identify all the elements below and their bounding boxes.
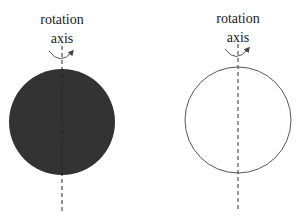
rotation-diagram: rotation axis rotation axis	[0, 0, 299, 217]
right-rotation-arrow-icon	[225, 49, 248, 57]
right-sphere-group: rotation axis	[185, 11, 291, 212]
right-label-axis: axis	[227, 30, 250, 45]
right-label-rotation: rotation	[216, 11, 260, 26]
left-label-axis: axis	[51, 31, 74, 46]
left-sphere-group: rotation axis	[9, 12, 115, 212]
left-label-rotation: rotation	[40, 12, 84, 27]
left-rotation-arrow-icon	[49, 51, 72, 59]
